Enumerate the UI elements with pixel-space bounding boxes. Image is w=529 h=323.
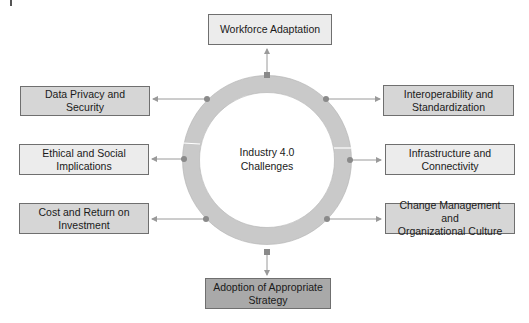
node-label-line2: Strategy — [213, 294, 323, 307]
node-label-line1: Infrastructure and — [409, 147, 491, 160]
node-label-line1: Change Management and — [390, 199, 510, 225]
node-label-line1: Ethical and Social — [42, 147, 125, 160]
node-ethical-social-implications: Ethical and Social Implications — [19, 144, 149, 175]
node-label-line2: Connectivity — [409, 160, 491, 173]
node-label-line2: Implications — [42, 160, 125, 173]
center-label: Industry 4.0 Challenges — [207, 145, 327, 173]
node-label-line1: Interoperability and — [404, 88, 493, 101]
dot-middle-left — [181, 156, 187, 162]
node-data-privacy-security: Data Privacy and Security — [20, 86, 150, 116]
node-workforce-adaptation: Workforce Adaptation — [208, 14, 332, 45]
node-interoperability-standardization: Interoperability and Standardization — [383, 85, 514, 116]
node-label-line2: Standardization — [404, 101, 493, 114]
node-label-line1: Adoption of Appropriate — [213, 281, 323, 294]
node-label: Workforce Adaptation — [220, 23, 320, 36]
node-label-line2: Organizational Culture — [390, 225, 510, 238]
dot-lower-right — [324, 216, 330, 222]
dot-lower-left — [203, 216, 209, 222]
node-cost-return-investment: Cost and Return on Investment — [19, 203, 149, 234]
center-label-line2: Challenges — [207, 159, 327, 173]
node-adoption-appropriate-strategy: Adoption of Appropriate Strategy — [205, 278, 331, 309]
node-change-management-culture: Change Management and Organizational Cul… — [385, 203, 515, 234]
center-label-line1: Industry 4.0 — [207, 145, 327, 159]
dot-upper-right — [323, 96, 329, 102]
node-label: Data Privacy and Security — [25, 88, 145, 114]
dot-top — [264, 72, 270, 78]
node-label-line1: Cost and Return on — [38, 206, 129, 219]
dot-bottom — [264, 249, 270, 255]
dot-upper-left — [204, 96, 210, 102]
dot-middle-right — [347, 157, 353, 163]
node-infrastructure-connectivity: Infrastructure and Connectivity — [385, 144, 515, 175]
node-label-line2: Investment — [38, 219, 129, 232]
